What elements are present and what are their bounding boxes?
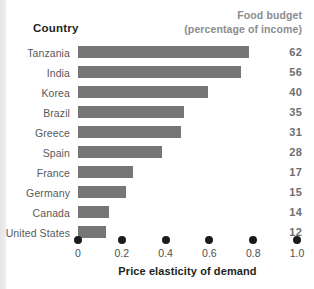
row-label-india: India [0, 67, 70, 79]
tick-dot-icon [249, 236, 257, 244]
bar-greece [78, 126, 181, 138]
food-budget-value: 31 [268, 126, 302, 138]
chart-rows: Tanzania62India56Korea40Brazil35Greece31… [0, 44, 314, 244]
chart-row: Canada14 [0, 204, 314, 224]
column-header-food-budget-line2: (percentage of income) [102, 22, 302, 36]
bar-track [78, 86, 297, 98]
food-budget-value: 15 [268, 186, 302, 198]
bar-track [78, 146, 297, 158]
row-label-canada: Canada [0, 207, 70, 219]
bar-track [78, 66, 297, 78]
chart-row: India56 [0, 64, 314, 84]
bar-tanzania [78, 46, 249, 58]
row-label-tanzania: Tanzania [0, 47, 70, 59]
tick-label: 0 [60, 247, 96, 259]
column-header-food-budget-line1: Food budget [102, 8, 302, 22]
chart-row: France17 [0, 164, 314, 184]
row-label-france: France [0, 167, 70, 179]
tick-dot-icon [74, 236, 82, 244]
tick-label: 0.8 [235, 247, 271, 259]
food-budget-value: 56 [268, 66, 302, 78]
chart-row: Korea40 [0, 84, 314, 104]
chart-figure: Country Food budget (percentage of incom… [0, 0, 314, 289]
row-label-brazil: Brazil [0, 107, 70, 119]
chart-row: Tanzania62 [0, 44, 314, 64]
food-budget-value: 62 [268, 46, 302, 58]
tick-label: 0.2 [104, 247, 140, 259]
chart-row: Spain28 [0, 144, 314, 164]
food-budget-value: 17 [268, 166, 302, 178]
tick-label: 1.0 [279, 247, 314, 259]
chart-row: Greece31 [0, 124, 314, 144]
tick-dot-icon [205, 236, 213, 244]
bar-track [78, 206, 297, 218]
tick-dot-icon [162, 236, 170, 244]
bar-korea [78, 86, 208, 98]
bar-spain [78, 146, 162, 158]
food-budget-value: 28 [268, 146, 302, 158]
bar-brazil [78, 106, 184, 118]
bar-germany [78, 186, 126, 198]
chart-row: Germany15 [0, 184, 314, 204]
chart-row: Brazil35 [0, 104, 314, 124]
bar-track [78, 166, 297, 178]
column-header-country: Country [33, 22, 78, 34]
column-header-food-budget: Food budget (percentage of income) [102, 8, 302, 36]
bar-track [78, 106, 297, 118]
row-label-spain: Spain [0, 147, 70, 159]
food-budget-value: 35 [268, 106, 302, 118]
bar-canada [78, 206, 109, 218]
row-label-korea: Korea [0, 87, 70, 99]
row-label-germany: Germany [0, 187, 70, 199]
food-budget-value: 40 [268, 86, 302, 98]
food-budget-value: 14 [268, 206, 302, 218]
row-label-greece: Greece [0, 127, 70, 139]
bar-track [78, 46, 297, 58]
x-axis: 00.20.40.60.81.0 [0, 236, 314, 260]
tick-label: 0.6 [191, 247, 227, 259]
x-axis-title: Price elasticity of demand [78, 265, 297, 277]
tick-label: 0.4 [148, 247, 184, 259]
tick-dot-icon [118, 236, 126, 244]
bar-india [78, 66, 241, 78]
bar-france [78, 166, 133, 178]
bar-track [78, 126, 297, 138]
bar-track [78, 186, 297, 198]
tick-dot-icon [293, 236, 301, 244]
